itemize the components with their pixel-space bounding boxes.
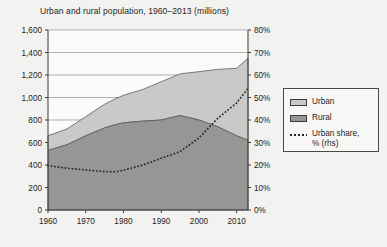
svg-text:1,400: 1,400 bbox=[22, 49, 43, 58]
svg-text:200: 200 bbox=[28, 184, 42, 193]
svg-text:50%: 50% bbox=[254, 94, 270, 103]
svg-text:2000: 2000 bbox=[190, 217, 209, 226]
svg-text:0: 0 bbox=[37, 206, 42, 215]
svg-text:1,600: 1,600 bbox=[22, 26, 43, 35]
legend-item-urban: Urban bbox=[290, 97, 334, 107]
legend-label-urban-share: Urban share, % (rhs) bbox=[312, 129, 359, 148]
svg-text:80%: 80% bbox=[254, 26, 270, 35]
svg-text:1970: 1970 bbox=[77, 217, 96, 226]
svg-text:400: 400 bbox=[28, 161, 42, 170]
svg-text:20%: 20% bbox=[254, 161, 270, 170]
chart-legend: Urban Rural Urban share, % (rhs) bbox=[283, 88, 379, 152]
svg-text:1980: 1980 bbox=[114, 217, 133, 226]
svg-text:40%: 40% bbox=[254, 116, 270, 125]
legend-item-rural: Rural bbox=[290, 113, 332, 123]
legend-swatch-rural-icon bbox=[290, 115, 307, 122]
svg-text:600: 600 bbox=[28, 139, 42, 148]
legend-swatch-urban-icon bbox=[290, 99, 307, 106]
svg-text:60%: 60% bbox=[254, 71, 270, 80]
svg-text:30%: 30% bbox=[254, 139, 270, 148]
svg-text:2010: 2010 bbox=[228, 217, 247, 226]
svg-text:1,000: 1,000 bbox=[22, 94, 43, 103]
legend-dotted-line-icon bbox=[290, 131, 307, 138]
svg-text:1990: 1990 bbox=[152, 217, 171, 226]
svg-text:800: 800 bbox=[28, 116, 42, 125]
chart-container: Urban and rural population, 1960–2013 (m… bbox=[0, 0, 387, 247]
svg-text:10%: 10% bbox=[254, 184, 270, 193]
svg-text:70%: 70% bbox=[254, 49, 270, 58]
svg-text:1,200: 1,200 bbox=[22, 71, 43, 80]
svg-text:1960: 1960 bbox=[39, 217, 58, 226]
legend-label-urban: Urban bbox=[312, 97, 334, 107]
legend-label-rural: Rural bbox=[312, 113, 332, 123]
legend-item-urban-share: Urban share, % (rhs) bbox=[290, 129, 359, 148]
svg-text:0%: 0% bbox=[254, 206, 266, 215]
